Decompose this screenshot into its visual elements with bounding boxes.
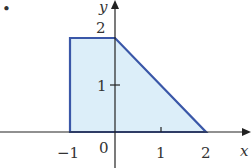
x-axis-arrow-icon	[242, 128, 251, 136]
region-plot: • y x −1 0 1 2 1 2	[0, 0, 251, 168]
y-tick-label-1: 1	[97, 77, 107, 95]
x-tick-label-neg1: −1	[57, 144, 79, 162]
x-tick-label-0: 0	[99, 139, 109, 157]
x-tick-label-2: 2	[201, 144, 211, 162]
y-axis-arrow-icon	[111, 0, 119, 9]
y-tick-label-2: 2	[96, 19, 106, 37]
marker-dot: •	[2, 0, 11, 18]
x-axis-label: x	[240, 142, 249, 160]
y-axis-label: y	[98, 0, 108, 16]
shaded-region	[70, 38, 206, 132]
x-tick-label-1: 1	[156, 144, 166, 162]
